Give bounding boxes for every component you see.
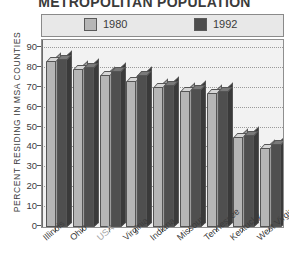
legend-label-1992: 1992 [213, 18, 237, 31]
bar-face [191, 89, 201, 227]
chart-title: METROPOLITAN POPULATION [0, 0, 289, 8]
bar-tennessee-1992 [218, 87, 228, 227]
legend-entry-1992: 1992 [194, 18, 237, 31]
bar-face [73, 69, 83, 227]
bar-face [111, 71, 121, 227]
bar-side [147, 66, 152, 227]
dark-gray-swatch-icon [194, 18, 207, 31]
bar-west-virginia-1980 [260, 144, 270, 227]
y-tick-label: 90 [26, 41, 37, 52]
bar-face [260, 148, 270, 227]
bar-side [201, 80, 206, 227]
bar-face [84, 67, 94, 227]
bar-usa-1980 [100, 71, 110, 227]
legend-label-1980: 1980 [103, 18, 127, 31]
bar-missouri-1992 [191, 85, 201, 227]
y-axis-title: PERCENT RESIDING IN MSA COUNTIES [12, 27, 22, 217]
bar-tennessee-1980 [207, 89, 217, 227]
y-tick-label: 70 [26, 80, 37, 91]
plot-area [41, 39, 284, 228]
y-tick-label: 80 [26, 60, 37, 71]
y-tick-label: 60 [26, 100, 37, 111]
bar-face [180, 91, 190, 227]
bar-ohio-1992 [84, 63, 94, 227]
bar-ohio-1980 [73, 65, 83, 227]
chart-legend: 1980 1992 [41, 14, 284, 37]
bar-side [174, 76, 179, 227]
y-tick-label: 20 [26, 180, 37, 191]
y-tick-label: 40 [26, 140, 37, 151]
bar-side [121, 62, 126, 227]
bar-face [57, 59, 67, 227]
y-tick-label: 10 [26, 200, 37, 211]
metropolitan-population-chart: METROPOLITAN POPULATION 1980 1992 PERCEN… [0, 0, 289, 274]
bar-virginia-1992 [137, 71, 147, 227]
bar-virginia-1980 [126, 77, 136, 227]
bar-face [46, 61, 56, 227]
bar-usa-1992 [111, 67, 121, 227]
bar-face [126, 81, 136, 227]
bar-illinois-1992 [57, 55, 67, 227]
bars-layer [42, 40, 283, 227]
bar-indiana-1992 [164, 81, 174, 227]
bar-face [153, 87, 163, 227]
x-axis: IllinoisOhioUSAVirginiaIndianaMissouriTe… [41, 228, 284, 274]
bar-face [207, 93, 217, 227]
bar-illinois-1980 [46, 57, 56, 227]
y-axis: PERCENT RESIDING IN MSA COUNTIES 9080706… [0, 39, 41, 228]
y-tick-label: 50 [26, 120, 37, 131]
bar-face [100, 75, 110, 227]
legend-entry-1980: 1980 [84, 18, 127, 31]
bar-face [137, 75, 147, 227]
bar-indiana-1980 [153, 83, 163, 227]
bar-face [218, 91, 228, 227]
bar-side [94, 58, 99, 227]
bar-face [164, 85, 174, 227]
y-tick-label: 30 [26, 160, 37, 171]
light-gray-swatch-icon [84, 18, 97, 31]
bar-missouri-1980 [180, 87, 190, 227]
bar-side [67, 50, 72, 227]
bar-side [228, 82, 233, 227]
